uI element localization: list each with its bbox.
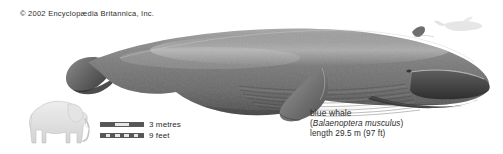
small-whale-silhouette: [434, 17, 482, 31]
caption-common-name: blue whale: [310, 108, 403, 119]
scale-segment: [138, 134, 143, 137]
elephant-silhouette: [30, 101, 90, 143]
scale-segment: [115, 123, 129, 126]
copyright-notice: © 2002 Encyclopædia Britannica, Inc.: [20, 9, 154, 18]
caption-scientific-name: (Balaenoptera musculus): [310, 119, 403, 130]
scale-label-metres: 3 metres: [149, 120, 181, 129]
scientific-name-italic: Balaenoptera musculus: [313, 119, 401, 128]
blue-whale-figure: © 2002 Encyclopædia Britannica, Inc. 3 m…: [0, 0, 503, 154]
caption-block: blue whale (Balaenoptera musculus) lengt…: [310, 108, 403, 140]
scale-row-feet: 9 feet: [100, 130, 181, 141]
scale-segment: [101, 123, 115, 126]
scale-label-feet: 9 feet: [149, 131, 170, 140]
caption-length: length 29.5 m (97 ft): [310, 129, 403, 140]
scale-bars: 3 metres 9 feet: [100, 119, 181, 141]
paren-close: ): [401, 119, 404, 128]
blue-whale-illustration: [0, 0, 503, 154]
scale-row-metres: 3 metres: [100, 119, 181, 130]
whale-eye: [406, 69, 411, 72]
scale-bar-metres: [100, 122, 144, 127]
scale-segment: [129, 123, 143, 126]
scale-bar-feet: [100, 133, 144, 138]
